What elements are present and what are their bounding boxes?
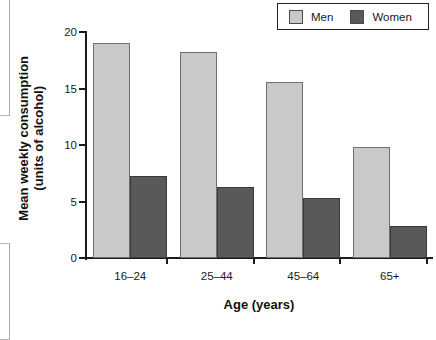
bar-men-16-24 [93,43,130,258]
x-axis-category-label: 45–64 [287,270,319,282]
bar-women-45-64 [303,198,340,258]
y-axis-tick-label: 20 [55,26,77,38]
legend-swatch-women-icon [350,10,364,24]
bar-men-65+ [353,147,390,258]
legend-swatch-men-icon [289,10,303,24]
legend-item-women: Women [350,4,411,29]
bar-women-16-24 [130,176,167,258]
x-axis-tick-mark [426,258,428,264]
bars-layer [87,32,433,258]
y-axis-title-line-2: (units of alcohol) [31,23,46,253]
chart-legend: Men Women [277,3,429,30]
legend-label-men: Men [311,11,333,23]
x-axis-tick-mark [253,258,255,264]
x-axis-tick-mark [339,258,341,264]
y-axis-tick-mark [79,31,86,33]
y-axis-title: Mean weekly consumption (units of alcoho… [16,23,47,253]
bar-men-25-44 [180,52,217,258]
x-axis-category-label: 25–44 [201,270,233,282]
legend-item-men: Men [289,4,333,29]
y-axis-tick-label: 15 [55,83,77,95]
legend-label-women: Women [372,11,411,23]
y-axis-tick-label: 5 [55,196,77,208]
x-axis-category-label: 16–24 [114,270,146,282]
x-axis-title: Age (years) [86,297,432,312]
x-axis-category-label: 65+ [380,270,400,282]
y-axis-tick-mark [79,88,86,90]
y-axis-title-line-1: Mean weekly consumption [16,23,31,253]
scan-edge-artifact-bottom [0,243,10,340]
y-axis-tick-mark [79,144,86,146]
bar-women-25-44 [217,187,254,258]
y-axis-tick-label: 0 [55,252,77,264]
y-axis-tick-mark [79,201,86,203]
bar-men-45-64 [266,82,303,258]
scan-edge-artifact-top [0,0,10,116]
bar-women-65+ [390,226,427,258]
x-axis-tick-mark [166,258,168,264]
y-axis-tick-label: 10 [55,139,77,151]
y-axis-tick-mark [79,257,86,259]
